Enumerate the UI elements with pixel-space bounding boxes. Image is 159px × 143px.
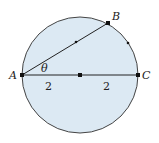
label-c: C: [142, 69, 151, 82]
angle-theta-label: θ: [41, 62, 48, 75]
center-point: [78, 73, 82, 77]
chord-midpoint-tick: [75, 41, 78, 44]
circle-diagram: A B C θ 2 2: [0, 0, 159, 143]
label-a: A: [8, 69, 17, 82]
segment-label-oc: 2: [103, 80, 110, 93]
point-c: [136, 73, 140, 77]
point-a: [20, 73, 24, 77]
point-b: [106, 21, 110, 25]
label-b: B: [111, 10, 120, 23]
segment-label-ao: 2: [45, 80, 52, 93]
arc-tick: [127, 42, 130, 45]
